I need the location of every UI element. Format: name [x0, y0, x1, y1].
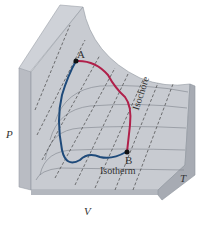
t-axis-label: T — [180, 172, 186, 184]
p-axis-label: P — [6, 128, 13, 140]
surface-left-front — [19, 68, 31, 190]
v-axis-label: V — [84, 205, 91, 217]
point-a-label: A — [77, 48, 85, 60]
pvt-surface-diagram — [0, 0, 199, 228]
surface-front — [31, 190, 158, 195]
isotherm-label: Isotherm — [100, 165, 136, 176]
